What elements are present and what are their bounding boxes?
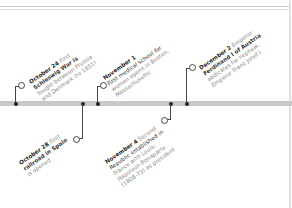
event-label-nov4: November 4 Second Republic established i… xyxy=(104,123,177,189)
timeline-dot-icon xyxy=(96,102,100,106)
timeline-dot-icon xyxy=(185,102,189,106)
event-marker-icon xyxy=(189,64,196,71)
event-label-oct28: October 28 First railroad in Spain is op… xyxy=(18,131,73,178)
event-stem-nov1 xyxy=(97,86,98,103)
top-border-inner xyxy=(0,9,290,10)
event-marker-icon xyxy=(73,136,80,143)
event-stem-dec2 xyxy=(186,68,187,103)
top-border xyxy=(0,6,290,7)
event-stem-oct28 xyxy=(82,104,83,138)
event-label-dec2: December 2 Emperor Ferdinand I of Austri… xyxy=(198,27,270,89)
event-marker-icon xyxy=(161,117,168,124)
event-label-oct24: October 24 First Schleswig War is fought… xyxy=(28,42,98,103)
event-stem-nov4 xyxy=(170,104,171,119)
timeline-dot-icon xyxy=(14,102,18,106)
event-marker-icon xyxy=(18,82,25,89)
event-label-nov1: November 1 First medical school for wome… xyxy=(102,37,174,99)
event-stem-oct24 xyxy=(15,86,16,103)
